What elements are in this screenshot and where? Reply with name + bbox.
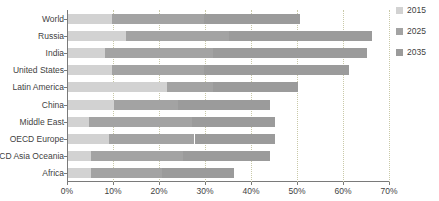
legend-swatch-icon — [396, 49, 403, 56]
bar-segment-2035 — [195, 134, 276, 144]
bar-segment-2025 — [89, 117, 193, 127]
bar-segment-2025 — [109, 134, 194, 144]
y-axis-category-label: Russia — [38, 31, 64, 41]
bar-segment-2025 — [112, 14, 204, 24]
y-axis-category-label: OECD Asia Oceania — [0, 151, 64, 161]
bar-segment-2015 — [68, 168, 91, 178]
bar-segment-2025 — [91, 151, 183, 161]
y-axis-category-labels: WorldRussiaIndiaUnited StatesLatin Ameri… — [0, 10, 64, 182]
bar-segment-2035 — [178, 100, 270, 110]
bar-segment-2025 — [112, 65, 204, 75]
bar-segment-2015 — [68, 14, 112, 24]
x-tick — [205, 182, 206, 185]
legend-swatch-icon — [396, 28, 403, 35]
legend-swatch-icon — [396, 7, 403, 14]
bar-segment-2015 — [68, 48, 105, 58]
legend-label: 2025 — [407, 27, 426, 36]
x-axis-tick-label: 50% — [282, 186, 312, 196]
legend-item-2035[interactable]: 2035 — [396, 48, 439, 57]
x-tick — [113, 182, 114, 185]
x-axis-tick-label: 70% — [374, 186, 404, 196]
x-axis-tick-label: 0% — [52, 186, 82, 196]
bar-segment-2035 — [204, 65, 349, 75]
bar-segment-2035 — [213, 48, 367, 58]
legend-item-2025[interactable]: 2025 — [396, 27, 439, 36]
y-axis-category-label: Africa — [42, 168, 64, 178]
y-tick — [64, 139, 67, 140]
x-axis-line — [67, 181, 389, 182]
x-axis-tick-label: 40% — [236, 186, 266, 196]
bar-segment-2015 — [68, 151, 91, 161]
y-tick — [64, 173, 67, 174]
bar-segment-2015 — [68, 82, 167, 92]
bar-segment-2035 — [192, 117, 275, 127]
x-tick — [251, 182, 252, 185]
y-tick — [64, 87, 67, 88]
y-axis-category-label: Latin America — [13, 82, 65, 92]
y-axis-category-label: Middle East — [20, 117, 64, 127]
bar-segment-2015 — [68, 134, 109, 144]
y-tick — [64, 19, 67, 20]
bar-segment-2025 — [126, 31, 230, 41]
y-tick — [64, 70, 67, 71]
bar-segment-2035 — [183, 151, 270, 161]
bar-segment-2035 — [213, 82, 298, 92]
chart-legend: 201520252035 — [396, 6, 439, 69]
bar-segment-2035 — [162, 168, 233, 178]
legend-label: 2015 — [407, 6, 426, 15]
x-axis-tick-label: 20% — [144, 186, 174, 196]
y-axis-category-label: India — [46, 48, 64, 58]
bar-segment-2015 — [68, 117, 89, 127]
x-tick — [343, 182, 344, 185]
y-axis-category-label: OECD Europe — [10, 134, 64, 144]
x-axis-tick-label: 30% — [190, 186, 220, 196]
y-tick — [64, 105, 67, 106]
bar-segment-2025 — [105, 48, 213, 58]
bar-segment-2025 — [114, 100, 178, 110]
x-axis-tick-label: 10% — [98, 186, 128, 196]
legend-label: 2035 — [407, 48, 426, 57]
y-axis-category-label: United States — [13, 65, 64, 75]
x-tick — [297, 182, 298, 185]
bar-segment-2035 — [229, 31, 372, 41]
y-tick — [64, 53, 67, 54]
y-axis-category-label: China — [42, 100, 64, 110]
stacked-bar-chart: WorldRussiaIndiaUnited StatesLatin Ameri… — [0, 0, 439, 201]
x-tick — [159, 182, 160, 185]
gridline-70 — [389, 10, 390, 182]
y-tick — [64, 156, 67, 157]
plot-area — [67, 10, 389, 182]
x-tick — [67, 182, 68, 185]
chart-title — [67, 0, 367, 1]
y-tick — [64, 122, 67, 123]
bar-segment-2015 — [68, 100, 114, 110]
bar-segment-2035 — [204, 14, 301, 24]
bar-segment-2025 — [91, 168, 162, 178]
y-axis-category-label: World — [42, 14, 64, 24]
bar-segment-2025 — [167, 82, 213, 92]
bar-segment-2015 — [68, 31, 126, 41]
x-axis-tick-label: 60% — [328, 186, 358, 196]
legend-item-2015[interactable]: 2015 — [396, 6, 439, 15]
bar-segment-2015 — [68, 65, 112, 75]
y-tick — [64, 36, 67, 37]
x-tick — [389, 182, 390, 185]
